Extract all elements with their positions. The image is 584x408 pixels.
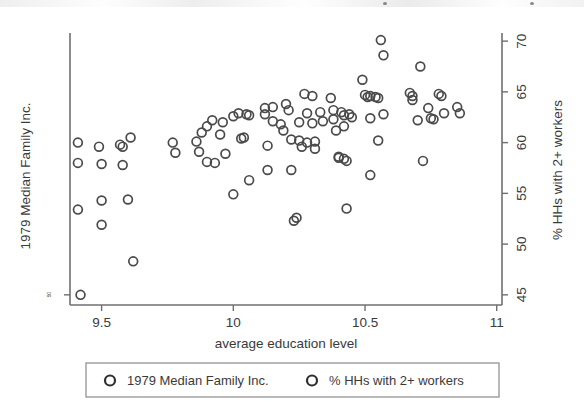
- data-point-series: [74, 36, 465, 300]
- data-point: [329, 115, 338, 124]
- y-axis-left-title: 1979 Median Family Inc.: [18, 102, 33, 249]
- data-point: [118, 142, 127, 151]
- data-point: [366, 171, 375, 180]
- y-axis-left-ticks: 50: [46, 292, 70, 297]
- data-point: [74, 159, 83, 168]
- data-point: [376, 36, 385, 45]
- data-point: [379, 51, 388, 60]
- data-point: [245, 176, 254, 185]
- data-point: [263, 141, 272, 150]
- data-point: [171, 148, 180, 157]
- data-point: [287, 166, 296, 175]
- data-point: [440, 109, 449, 118]
- data-point: [342, 156, 351, 165]
- y-right-tick-label: 55: [514, 186, 529, 201]
- y-axis-right-ticks: 455055606570: [502, 34, 529, 303]
- data-point: [374, 136, 383, 145]
- legend-marker-icon-0: [105, 376, 115, 386]
- data-point: [308, 119, 317, 128]
- data-point: [97, 196, 106, 205]
- data-point: [326, 94, 335, 103]
- data-point: [316, 108, 325, 117]
- data-point: [416, 62, 425, 71]
- legend-marker-icon-1: [307, 376, 317, 386]
- scan-speck: [383, 2, 387, 5]
- chart-legend: 1979 Median Family Inc. % HHs with 2+ wo…: [86, 363, 499, 397]
- y-right-tick-label: 70: [514, 34, 529, 49]
- data-point: [318, 117, 327, 126]
- data-point: [216, 130, 225, 139]
- x-tick-label: 10.5: [352, 315, 378, 330]
- data-point: [379, 110, 388, 119]
- data-point: [263, 166, 272, 175]
- data-point: [342, 204, 351, 213]
- data-point: [208, 116, 217, 125]
- data-point: [192, 137, 201, 146]
- x-tick-label: 9.5: [92, 315, 111, 330]
- x-axis-ticks: 9.51010.511: [92, 305, 504, 330]
- data-point: [424, 104, 433, 113]
- data-point: [124, 195, 133, 204]
- data-point: [261, 110, 270, 119]
- x-axis-title: average education level: [215, 336, 358, 351]
- data-point: [303, 109, 312, 118]
- y-right-tick-label: 60: [514, 135, 529, 150]
- data-point: [195, 147, 204, 156]
- data-point: [413, 116, 422, 125]
- data-point: [76, 290, 85, 299]
- data-point: [129, 257, 138, 266]
- plot-axes: [70, 33, 502, 305]
- data-point: [358, 75, 367, 84]
- data-point: [419, 156, 428, 165]
- data-point: [229, 190, 238, 199]
- y-axis-right-title: % HHs with 2+ workers: [550, 100, 565, 240]
- data-point: [97, 220, 106, 229]
- data-point: [168, 138, 177, 147]
- data-point: [118, 161, 127, 170]
- y-right-tick-label: 50: [514, 237, 529, 252]
- scatter-plot-figure: 9.51010.511 455055606570 50 average educ…: [0, 0, 584, 408]
- data-point: [437, 92, 446, 101]
- y-left-tick-label: 50: [46, 292, 52, 297]
- data-point: [74, 205, 83, 214]
- x-tick-label: 10: [226, 315, 241, 330]
- data-point: [95, 142, 104, 151]
- legend-label-0: 1979 Median Family Inc.: [127, 373, 269, 388]
- data-point: [97, 160, 106, 169]
- data-point: [126, 133, 135, 142]
- data-point: [366, 114, 375, 123]
- data-point: [221, 149, 230, 158]
- x-tick-label: 11: [490, 315, 504, 330]
- y-right-tick-label: 45: [514, 287, 529, 302]
- data-point: [218, 118, 227, 127]
- y-right-tick-label: 65: [514, 84, 529, 99]
- data-point: [74, 138, 83, 147]
- data-point: [340, 122, 349, 131]
- chart-canvas: 9.51010.511 455055606570 50 average educ…: [0, 0, 584, 408]
- data-point: [295, 118, 304, 127]
- legend-label-1: % HHs with 2+ workers: [329, 373, 464, 388]
- scan-speck: [530, 2, 534, 5]
- series-0: [74, 36, 465, 300]
